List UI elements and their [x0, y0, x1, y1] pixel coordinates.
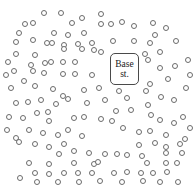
sensor-node: [32, 170, 38, 176]
sensor-node: [145, 102, 151, 108]
sensor-node: [165, 76, 171, 82]
sensor-node: [171, 97, 177, 103]
sensor-node: [72, 71, 78, 77]
sensor-node: [56, 151, 62, 157]
base-station-box[interactable]: Base st.: [110, 53, 139, 85]
sensor-node: [6, 114, 12, 120]
sensor-node: [131, 23, 137, 29]
sensor-node: [171, 120, 177, 126]
sensor-node: [128, 107, 134, 113]
sensor-node: [140, 178, 146, 184]
sensor-node: [96, 85, 102, 91]
sensor-node: [102, 97, 108, 103]
sensor-node: [183, 85, 189, 91]
sensor-node: [157, 65, 163, 71]
sensor-node: [124, 152, 130, 158]
sensor-node: [60, 93, 66, 99]
sensor-node: [108, 21, 114, 27]
network-topology-figure: Base st.: [0, 0, 196, 187]
sensor-node: [11, 68, 17, 74]
sensor-node: [124, 95, 130, 101]
sensor-node: [32, 83, 38, 89]
sensor-node: [145, 57, 151, 63]
sensor-node: [65, 32, 71, 38]
sensor-node: [41, 10, 47, 16]
sensor-node: [69, 20, 75, 26]
sensor-node: [76, 179, 82, 185]
sensor-node: [60, 59, 66, 65]
sensor-node: [46, 118, 52, 124]
sensor-node: [136, 129, 142, 135]
sensor-node: [150, 20, 156, 26]
sensor-node: [25, 99, 31, 105]
sensor-node: [157, 49, 163, 55]
sensor-node: [136, 142, 142, 148]
sensor-node: [98, 11, 104, 17]
sensor-node: [119, 179, 125, 185]
sensor-node: [5, 59, 11, 65]
sensor-node: [61, 141, 67, 147]
sensor-node: [97, 178, 103, 184]
sensor-node: [32, 52, 38, 58]
sensor-node: [32, 141, 38, 147]
sensor-node: [20, 115, 26, 121]
sensor-node: [48, 59, 54, 65]
sensor-node: [124, 169, 130, 175]
sensor-node: [34, 179, 40, 185]
sensor-node: [30, 20, 36, 26]
sensor-node: [75, 170, 81, 176]
sensor-node: [40, 130, 46, 136]
sensor-node: [34, 110, 40, 116]
sensor-node: [41, 70, 47, 76]
sensor-node: [30, 37, 36, 43]
sensor-node: [114, 151, 120, 157]
sensor-node: [61, 46, 67, 52]
sensor-node: [89, 40, 95, 46]
sensor-node: [21, 78, 27, 84]
sensor-node: [55, 132, 61, 138]
sensor-node: [71, 115, 77, 121]
sensor-node: [65, 96, 71, 102]
sensor-node: [147, 40, 153, 46]
sensor-node: [131, 38, 137, 44]
sensor-node: [45, 109, 51, 115]
sensor-node: [144, 160, 150, 166]
sensor-node: [65, 127, 71, 133]
sensor-node: [113, 108, 119, 114]
sensor-node: [79, 15, 85, 21]
sensor-node: [61, 170, 67, 176]
sensor-node: [60, 71, 66, 77]
sensor-node: [46, 171, 52, 177]
base-station-label-line2: st.: [120, 69, 129, 79]
sensor-node: [22, 21, 28, 27]
sensor-node: [152, 140, 158, 146]
sensor-node: [89, 170, 95, 176]
sensor-node: [84, 100, 90, 106]
sensor-node: [139, 153, 145, 159]
sensor-node: [79, 133, 85, 139]
sensor-node: [81, 87, 87, 93]
sensor-node: [164, 169, 170, 175]
sensor-node: [152, 32, 158, 38]
sensor-node: [13, 100, 19, 106]
sensor-node: [148, 112, 154, 118]
base-station-label-line1: Base: [115, 59, 133, 69]
sensor-node: [109, 118, 115, 124]
sensor-node: [179, 150, 185, 156]
sensor-node: [50, 86, 56, 92]
sensor-node: [46, 144, 52, 150]
sensor-node: [55, 179, 61, 185]
sensor-node: [13, 39, 19, 45]
sensor-node: [102, 151, 108, 157]
sensor-node: [138, 170, 144, 176]
sensor-node: [16, 139, 22, 145]
sensor-node: [157, 179, 163, 185]
sensor-node: [49, 40, 55, 46]
sensor-node: [89, 72, 95, 78]
sensor-node: [58, 10, 64, 16]
sensor-node: [3, 72, 9, 78]
sensor-node: [79, 46, 85, 52]
sensor-node: [4, 127, 10, 133]
sensor-node: [147, 128, 153, 134]
sensor-node: [116, 88, 122, 94]
